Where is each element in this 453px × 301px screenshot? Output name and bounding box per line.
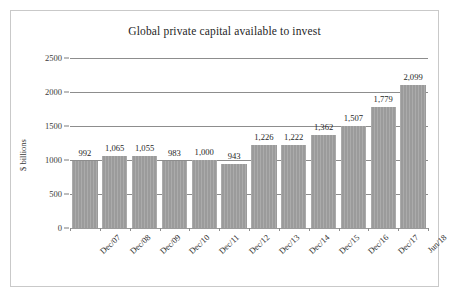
chart-figure: Global private capital available to inve… [0, 0, 453, 301]
y-tick-label-2000: 2000 [45, 87, 62, 97]
y-tick-label-1000: 1000 [45, 155, 62, 165]
y-tick-mark-1500 [64, 126, 69, 127]
bar-value-label: 943 [228, 151, 241, 161]
y-tick-mark-2500 [64, 58, 69, 59]
bar[interactable] [132, 156, 157, 228]
x-tick-mark [100, 228, 101, 231]
x-tick-mark [189, 228, 190, 231]
x-tick-mark [160, 228, 161, 231]
bar[interactable] [400, 85, 425, 228]
y-tick-label-0: 0 [58, 223, 62, 233]
bar-value-label: 983 [168, 148, 181, 158]
y-tick-label-2500: 2500 [45, 53, 62, 63]
bar-value-label: 1,779 [374, 94, 393, 104]
y-axis-tick-labels: 05001000150020002500 [28, 58, 62, 228]
x-tick-mark [249, 228, 250, 231]
plot-area: 9921,0651,0559831,0009431,2261,2221,3621… [70, 58, 428, 228]
bar[interactable] [311, 135, 336, 228]
x-tick-mark [219, 228, 220, 231]
bar[interactable] [162, 161, 187, 228]
bar[interactable] [251, 145, 276, 228]
x-tick-mark [428, 228, 429, 231]
bar-value-label: 1,226 [254, 132, 273, 142]
y-tick-label-1500: 1500 [45, 121, 62, 131]
bar[interactable] [72, 161, 97, 228]
bar[interactable] [341, 126, 366, 228]
bar-value-label: 2,099 [403, 72, 422, 82]
bar-value-label: 1,222 [284, 132, 303, 142]
y-axis-title: $ billions [18, 125, 28, 185]
bar[interactable] [221, 164, 246, 228]
x-tick-mark [279, 228, 280, 231]
y-tick-mark-500 [64, 194, 69, 195]
bar-value-label: 1,507 [344, 113, 363, 123]
x-tick-mark [130, 228, 131, 231]
bar-value-label: 1,362 [314, 122, 333, 132]
y-tick-mark-1000 [64, 160, 69, 161]
x-tick-mark [398, 228, 399, 231]
y-tick-mark-2000 [64, 92, 69, 93]
bar-value-label: 1,065 [105, 143, 124, 153]
bar[interactable] [371, 107, 396, 228]
x-tick-mark [339, 228, 340, 231]
bar[interactable] [102, 156, 127, 228]
y-tick-label-500: 500 [49, 189, 62, 199]
bar[interactable] [192, 160, 217, 228]
bar-value-label: 992 [78, 148, 91, 158]
x-tick-mark [309, 228, 310, 231]
bar-value-label: 1,000 [195, 147, 214, 157]
x-tick-mark [70, 228, 71, 231]
gridline-2500 [70, 58, 428, 59]
bar[interactable] [281, 145, 306, 228]
x-tick-mark [368, 228, 369, 231]
bar-value-label: 1,055 [135, 143, 154, 153]
gridline-2000 [70, 92, 428, 93]
chart-title: Global private capital available to inve… [10, 25, 439, 37]
y-tick-mark-0 [64, 228, 69, 229]
